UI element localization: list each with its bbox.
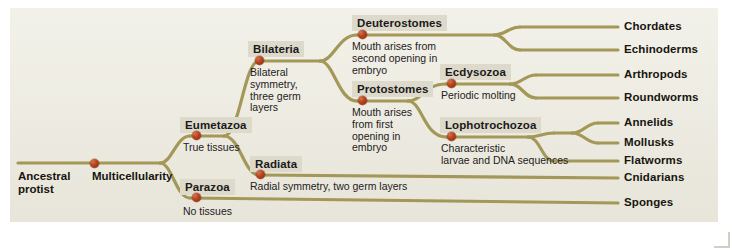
clade-label-parazoa: Parazoa: [180, 179, 235, 195]
trait-lophotrochozoa-l2: larvae and DNA sequences: [441, 155, 568, 167]
clade-label-protostomes: Protostomes: [352, 81, 433, 97]
node-eumetazoa[interactable]: [192, 131, 201, 140]
clade-label-bilateria: Bilateria: [248, 41, 304, 57]
trait-lophotrochozoa-l1: Characteristic: [441, 143, 568, 155]
taxon-label-arthropods: Arthropods: [624, 68, 688, 81]
taxon-label-chordates: Chordates: [624, 20, 682, 33]
taxon-label-roundworms: Roundworms: [624, 91, 698, 104]
root-origin-label: Ancestral protist: [18, 170, 70, 196]
trait-bilateria-l1: Bilateral: [250, 67, 301, 79]
clade-label-deuterostomes: Deuterostomes: [352, 15, 447, 31]
node-radiata[interactable]: [256, 170, 265, 179]
corner-mark-icon: [714, 232, 730, 248]
trait-bilateria-l4: layers: [250, 102, 301, 114]
taxon-label-mollusks: Mollusks: [624, 136, 674, 149]
trait-deuterostomes-l2: second opening in: [352, 53, 437, 65]
taxon-label-cnidarians: Cnidarians: [624, 171, 684, 184]
trait-ecdysozoa: Periodic molting: [441, 90, 516, 102]
node-parazoa[interactable]: [192, 193, 201, 202]
trait-lophotrochozoa: Characteristic larvae and DNA sequences: [441, 143, 568, 167]
trait-bilateria-l2: symmetry,: [250, 79, 301, 91]
clade-label-ecdysozoa: Ecdysozoa: [440, 64, 511, 80]
trait-protostomes-l2: from first: [352, 119, 412, 131]
figure-canvas: Ancestral protist Multicellularity Eumet…: [0, 0, 732, 250]
trait-protostomes: Mouth arises from first opening in embry…: [352, 107, 412, 154]
node-lophotrochozoa[interactable]: [447, 132, 456, 141]
trait-deuterostomes-l1: Mouth arises from: [352, 41, 437, 53]
taxon-label-flatworms: Flatworms: [624, 154, 682, 167]
trait-parazoa: No tissues: [183, 206, 232, 218]
trait-eumetazoa: True tissues: [183, 142, 240, 154]
root-origin-line1: Ancestral: [18, 170, 70, 183]
node-protostomes[interactable]: [358, 96, 367, 105]
trait-bilateria: Bilateral symmetry, three germ layers: [250, 67, 301, 114]
trait-deuterostomes-l3: embryo: [352, 65, 437, 77]
trait-radiata: Radial symmetry, two germ layers: [250, 181, 407, 193]
root-origin-line2: protist: [18, 183, 70, 196]
taxon-label-annelids: Annelids: [624, 116, 673, 129]
node-deuterostomes[interactable]: [358, 30, 367, 39]
node-ecdysozoa[interactable]: [447, 79, 456, 88]
node-multicellularity[interactable]: [90, 159, 99, 168]
trait-deuterostomes: Mouth arises from second opening in embr…: [352, 41, 437, 76]
trait-protostomes-l4: embryo: [352, 142, 412, 154]
node-bilateria[interactable]: [255, 56, 264, 65]
taxon-label-sponges: Sponges: [624, 196, 673, 209]
clade-label-eumetazoa: Eumetazoa: [180, 117, 252, 133]
clade-label-lophotrochozoa: Lophotrochozoa: [440, 117, 541, 133]
trait-protostomes-l1: Mouth arises: [352, 107, 412, 119]
taxon-label-echinoderms: Echinoderms: [624, 43, 698, 56]
multicellularity-label: Multicellularity: [92, 170, 173, 183]
